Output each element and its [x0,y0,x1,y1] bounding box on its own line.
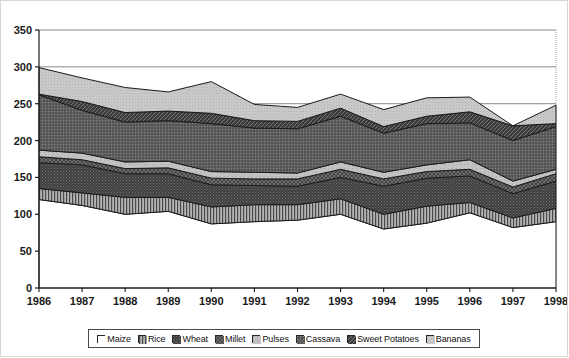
legend-label: Cassava [306,334,340,344]
y-axis-tick-label: 100 [14,208,32,220]
legend-item-maize[interactable]: Maize [97,334,131,344]
legend-item-millet[interactable]: Millet [215,334,245,344]
legend-item-pulses[interactable]: Pulses [252,334,288,344]
y-axis-tick-label: 150 [14,171,32,183]
x-axis-tick-label: 1998 [544,295,568,307]
y-axis-tick-label: 300 [14,61,32,73]
y-axis-tick-label: 0 [26,282,32,294]
x-axis-tick-label: 1991 [242,295,266,307]
x-axis-tick-label: 1990 [199,295,223,307]
swatch-sweet-potatoes-icon [347,335,355,343]
legend-label: Bananas [436,334,471,344]
legend-label: Sweet Potatoes [357,334,419,344]
x-axis-tick-label: 1989 [156,295,180,307]
x-axis-tick-label: 1995 [415,295,439,307]
chart-legend: Maize [88,329,480,348]
y-axis-tick-label: 50 [20,245,32,257]
legend-item-cassava[interactable]: Cassava [296,334,340,344]
x-axis-tick-label: 1996 [458,295,482,307]
legend-item-wheat[interactable]: Wheat [172,334,208,344]
legend-item-bananas[interactable]: Bananas [426,334,471,344]
y-axis-tick-label: 350 [14,24,32,36]
swatch-rice-icon [138,335,146,343]
legend-item-rice[interactable]: Rice [138,334,166,344]
stacked-area-chart: 050100150200250300350 198619871988198919… [0,0,569,358]
legend-item-sweet-potatoes[interactable]: Sweet Potatoes [347,334,419,344]
y-axis-tick-label: 200 [14,135,32,147]
swatch-bananas-icon [426,335,434,343]
legend-label: Pulses [262,334,288,344]
chart-stage: 050100150200250300350 198619871988198919… [0,0,569,358]
swatch-pulses-icon [252,335,260,343]
area-series-layer [39,68,556,288]
x-axis-tick-label: 1987 [70,295,94,307]
swatch-millet-icon [215,335,223,343]
x-axis-tick-labels: 1986198719881989199019911992199319941995… [27,288,568,307]
swatch-cassava-icon [296,335,304,343]
x-axis-tick-label: 1997 [501,295,525,307]
x-axis-tick-label: 1993 [328,295,352,307]
x-axis-tick-label: 1986 [27,295,51,307]
y-axis-tick-label: 250 [14,98,32,110]
swatch-maize-icon [97,335,105,343]
legend-label: Maize [107,334,131,344]
legend-label: Millet [225,334,245,344]
legend-label: Rice [148,334,166,344]
swatch-wheat-icon [172,335,180,343]
legend-label: Wheat [182,334,208,344]
x-axis-tick-label: 1992 [285,295,309,307]
x-axis-tick-label: 1988 [113,295,137,307]
y-axis-tick-labels: 050100150200250300350 [14,24,39,294]
x-axis-tick-label: 1994 [371,295,396,307]
